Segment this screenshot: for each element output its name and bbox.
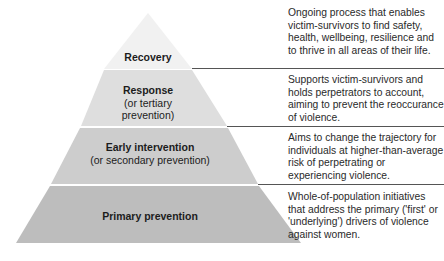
tier-subtitle: (or secondary prevention) bbox=[70, 154, 230, 167]
tier-title: Recovery bbox=[98, 51, 198, 64]
tier-response-description: Supports victim-survivors and holds perp… bbox=[288, 74, 444, 124]
tier-early-intervention-label: Early intervention (or secondary prevent… bbox=[70, 141, 230, 166]
tier-title: Primary prevention bbox=[70, 210, 230, 223]
tier-subtitle: (or tertiary bbox=[98, 97, 198, 110]
tier-title: Early intervention bbox=[70, 141, 230, 154]
tier-response-label: Response (or tertiary prevention) bbox=[98, 84, 198, 122]
divider-line bbox=[258, 184, 444, 185]
tier-early-intervention-description: Aims to change the trajectory for indivi… bbox=[288, 132, 444, 182]
tier-primary-prevention-label: Primary prevention bbox=[70, 210, 230, 223]
divider-line bbox=[192, 68, 444, 69]
tier-title: Response bbox=[98, 84, 198, 97]
divider-line bbox=[227, 126, 444, 127]
tier-recovery-label: Recovery bbox=[98, 51, 198, 64]
tier-recovery-description: Ongoing process that enables victim-surv… bbox=[288, 7, 444, 57]
tier-primary-prevention-description: Whole-of-population initiatives that add… bbox=[288, 191, 444, 241]
tier-subtitle: prevention) bbox=[98, 109, 198, 122]
